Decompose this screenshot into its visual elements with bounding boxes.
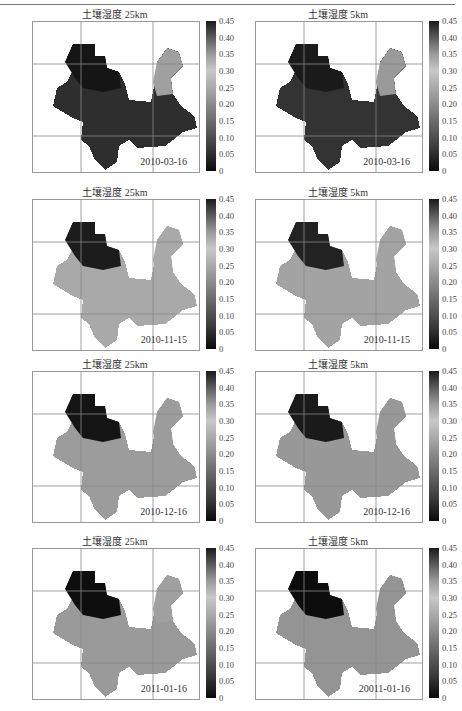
colorbar-tick-label: 0.30 <box>442 66 457 76</box>
colorbar-tick-label: 0.05 <box>219 499 234 509</box>
colorbar-tick-label: 0.10 <box>219 311 234 321</box>
region-map <box>33 372 199 522</box>
region-map <box>256 22 422 172</box>
region-map <box>33 200 199 350</box>
colorbar-tick-label: 0.05 <box>219 676 234 686</box>
colorbar-tick-label: 0.30 <box>442 593 457 603</box>
colorbar-tick-label: 0.30 <box>219 244 234 254</box>
colorbar-tick-label: 0.45 <box>219 16 234 26</box>
colorbar-tick-label: 0.05 <box>219 149 234 159</box>
colorbar-tick-label: 0.40 <box>219 33 234 43</box>
colorbar-tick-label: 0.20 <box>219 99 234 109</box>
colorbar-tick-label: 0.10 <box>219 133 234 143</box>
colorbar-tick-label: 0.35 <box>219 49 234 59</box>
date-annotation: 2010-03-16 <box>363 156 410 167</box>
colorbar-tick-label: 0.10 <box>442 660 457 670</box>
colorbar-tick-label: 0.25 <box>442 433 457 443</box>
map-plot-area: 2010-11-15 <box>255 199 423 351</box>
colorbar-tick-label: 0.25 <box>219 433 234 443</box>
colorbar <box>429 21 439 171</box>
colorbar-tick-label: 0 <box>219 693 223 703</box>
colorbar-tick-label: 0.45 <box>219 366 234 376</box>
colorbar-tick-label: 0.35 <box>219 399 234 409</box>
colorbar-tick-label: 0.40 <box>442 560 457 570</box>
map-plot-area: 2010-03-16 <box>255 21 423 173</box>
map-panel: 土壤湿度 25km 2010-12-16 0.450.400.350.300.2… <box>14 356 214 524</box>
panel-title: 土壤湿度 5km <box>255 184 421 199</box>
region-map <box>256 372 422 522</box>
colorbar <box>206 548 216 698</box>
colorbar-tick-label: 0.25 <box>219 610 234 620</box>
map-panel: 土壤湿度 5km 2010-11-15 0.450.400.350.300.25… <box>237 184 437 352</box>
colorbar-ticks: 0.450.400.350.300.250.200.150.100.050 <box>442 199 462 349</box>
panel-title: 土壤湿度 5km <box>255 6 421 21</box>
colorbar-tick-label: 0.40 <box>219 383 234 393</box>
panel-title: 土壤湿度 5km <box>255 356 421 371</box>
colorbar-ticks: 0.450.400.350.300.250.200.150.100.050 <box>442 21 462 171</box>
colorbar-tick-label: 0.25 <box>219 83 234 93</box>
panel-title: 土壤湿度 25km <box>32 184 198 199</box>
colorbar-tick-label: 0.40 <box>442 211 457 221</box>
colorbar-tick-label: 0.10 <box>219 483 234 493</box>
colorbar-tick-label: 0.15 <box>442 294 457 304</box>
map-plot-area: 2010-11-15 <box>32 199 200 351</box>
map-plot-area: 2010-03-16 <box>32 21 200 173</box>
colorbar-tick-label: 0.15 <box>442 116 457 126</box>
date-annotation: 2010-11-15 <box>141 334 187 345</box>
colorbar <box>429 199 439 349</box>
colorbar-tick-label: 0.10 <box>442 133 457 143</box>
colorbar-ticks: 0.450.400.350.300.250.200.150.100.050 <box>442 548 462 698</box>
colorbar-tick-label: 0.30 <box>219 593 234 603</box>
colorbar-tick-label: 0.20 <box>219 626 234 636</box>
colorbar-ticks: 0.450.400.350.300.250.200.150.100.050 <box>442 371 462 521</box>
top-rule <box>0 4 455 5</box>
map-plot-area: 2010-12-16 <box>32 371 200 523</box>
colorbar <box>429 548 439 698</box>
colorbar-tick-label: 0 <box>442 693 446 703</box>
region-map <box>33 549 199 699</box>
colorbar-tick-label: 0.30 <box>219 416 234 426</box>
map-panel: 土壤湿度 5km 2010-12-16 0.450.400.350.300.25… <box>237 356 437 524</box>
map-plot-area: 20011-01-16 <box>255 548 423 700</box>
map-panel: 土壤湿度 25km 2010-03-16 0.450.400.350.300.2… <box>14 6 214 174</box>
colorbar-tick-label: 0.10 <box>442 311 457 321</box>
date-annotation: 2010-11-15 <box>364 334 410 345</box>
colorbar-tick-label: 0.20 <box>442 626 457 636</box>
colorbar-tick-label: 0.15 <box>442 466 457 476</box>
colorbar-tick-label: 0.20 <box>442 99 457 109</box>
map-panel: 土壤湿度 25km 2011-01-16 0.450.400.350.300.2… <box>14 533 214 701</box>
map-panel: 土壤湿度 5km 20011-01-16 0.450.400.350.300.2… <box>237 533 437 701</box>
region-map <box>256 549 422 699</box>
colorbar-tick-label: 0.45 <box>219 543 234 553</box>
colorbar-tick-label: 0.45 <box>442 366 457 376</box>
colorbar-tick-label: 0.05 <box>219 327 234 337</box>
colorbar-tick-label: 0 <box>219 166 223 176</box>
colorbar <box>206 371 216 521</box>
colorbar-tick-label: 0 <box>219 344 223 354</box>
colorbar-tick-label: 0.45 <box>442 194 457 204</box>
colorbar-tick-label: 0.35 <box>442 49 457 59</box>
colorbar-tick-label: 0.35 <box>442 399 457 409</box>
map-plot-area: 2011-01-16 <box>32 548 200 700</box>
colorbar <box>206 199 216 349</box>
date-annotation: 2010-12-16 <box>140 506 187 517</box>
colorbar-tick-label: 0.05 <box>442 499 457 509</box>
colorbar-tick-label: 0.05 <box>442 327 457 337</box>
panel-title: 土壤湿度 5km <box>255 533 421 548</box>
colorbar-tick-label: 0.15 <box>219 116 234 126</box>
colorbar-tick-label: 0.10 <box>442 483 457 493</box>
colorbar-tick-label: 0.25 <box>442 261 457 271</box>
colorbar-tick-label: 0 <box>442 166 446 176</box>
colorbar-tick-label: 0.20 <box>442 449 457 459</box>
map-plot-area: 2010-12-16 <box>255 371 423 523</box>
colorbar-tick-label: 0.15 <box>219 466 234 476</box>
colorbar-tick-label: 0.30 <box>442 416 457 426</box>
colorbar-tick-label: 0.10 <box>219 660 234 670</box>
colorbar-tick-label: 0.40 <box>219 560 234 570</box>
colorbar-tick-label: 0 <box>442 344 446 354</box>
panel-title: 土壤湿度 25km <box>32 533 198 548</box>
colorbar-tick-label: 0 <box>442 516 446 526</box>
colorbar-tick-label: 0.20 <box>219 277 234 287</box>
colorbar-tick-label: 0.20 <box>442 277 457 287</box>
panel-title: 土壤湿度 25km <box>32 356 198 371</box>
